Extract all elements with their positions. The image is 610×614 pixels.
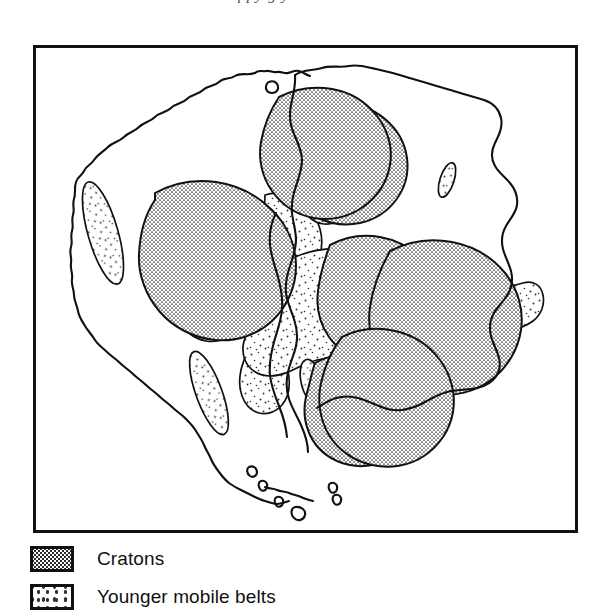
coastline-tierra-del-fuego (265, 487, 313, 501)
craton-regions (139, 88, 522, 467)
map-legend: Cratons Younger mobile belts (30, 540, 430, 614)
cropped-caption-text: ppy g y (238, 0, 290, 4)
island-tdf-1 (247, 466, 257, 476)
island-tdf-4 (291, 507, 305, 520)
legend-item-younger-mobile-belts: Younger mobile belts (30, 578, 430, 614)
island-tdf-3 (275, 497, 284, 507)
legend-swatch-cratons (30, 546, 74, 572)
gondwana-map-svg (33, 45, 578, 533)
region-andean-belt-north (74, 178, 132, 288)
island-falkland-a (329, 483, 338, 493)
region-isolated-belt-ellipse (435, 161, 459, 200)
island-falkland-b (333, 495, 342, 505)
island-tdf-2 (259, 481, 268, 491)
region-andean-belt-south (182, 347, 237, 439)
legend-label-younger-mobile-belts: Younger mobile belts (97, 586, 276, 608)
legend-item-cratons: Cratons (30, 540, 430, 578)
legend-swatch-younger-mobile-belts (30, 584, 74, 610)
gondwana-map-figure (33, 45, 578, 533)
legend-label-cratons: Cratons (97, 548, 164, 570)
region-west-african-craton (260, 88, 391, 219)
cropped-caption-sliver: ppy g y (0, 0, 610, 13)
coastline-inlet-loop (266, 81, 278, 93)
